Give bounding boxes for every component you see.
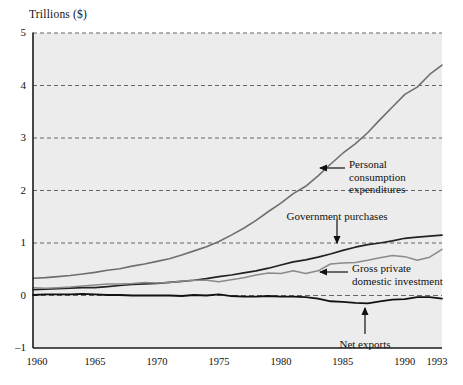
annotation-line: domestic investment (352, 275, 443, 288)
x-tick-label-1965: 1965 (84, 356, 105, 367)
x-tick-label-1985: 1985 (332, 356, 353, 367)
annotation-line: Government purchases (286, 210, 387, 223)
annotation-line: Personal (349, 158, 406, 171)
annotation-label-government-purchases: Government purchases (286, 210, 387, 223)
annotation-label-net-exports: Net exports (339, 338, 390, 351)
x-tick-label-1980: 1980 (270, 356, 291, 367)
annotation-line: Gross private (352, 262, 443, 275)
x-tick-label-1975: 1975 (208, 356, 229, 367)
x-tick-label-1993: 1993 (427, 356, 448, 367)
x-tick-label-1990: 1990 (394, 356, 415, 367)
chart-container: Trillions ($) 543210–1 19601965197019751… (0, 0, 463, 385)
x-tick-label-1970: 1970 (146, 356, 167, 367)
annotation-line: expenditures (349, 183, 406, 196)
annotation-label-personal-consumption: Personalconsumptionexpenditures (349, 158, 406, 196)
x-tick-label-1960: 1960 (27, 356, 48, 367)
annotation-label-gross-private-domestic-investment: Gross privatedomestic investment (352, 262, 443, 287)
annotation-line: consumption (349, 171, 406, 184)
annotation-line: Net exports (339, 338, 390, 351)
